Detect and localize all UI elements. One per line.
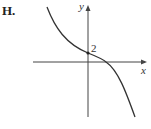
y-intercept-point <box>86 51 89 54</box>
y-axis-label: y <box>79 0 84 12</box>
graph <box>0 0 151 129</box>
y-intercept-label: 2 <box>91 42 97 54</box>
y-axis-arrow-icon <box>86 5 91 11</box>
x-axis-label: x <box>141 64 146 76</box>
